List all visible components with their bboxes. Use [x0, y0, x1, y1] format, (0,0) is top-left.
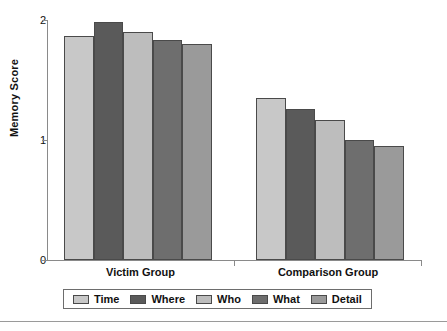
bar-what-victim-group — [153, 40, 183, 260]
y-axis-line — [47, 20, 48, 261]
legend-item-what[interactable]: What — [252, 293, 300, 305]
bar-what-comparison-group — [345, 140, 375, 260]
legend-item-where[interactable]: Where — [130, 293, 185, 305]
legend-swatch-time — [73, 295, 89, 304]
y-tick-0 — [42, 260, 47, 261]
bar-who-victim-group — [123, 32, 153, 260]
legend-label-what: What — [273, 293, 300, 305]
bar-where-comparison-group — [286, 109, 316, 260]
legend-item-time[interactable]: Time — [73, 293, 119, 305]
legend-label-detail: Detail — [332, 293, 362, 305]
bar-time-comparison-group — [256, 98, 286, 260]
legend-label-time: Time — [94, 293, 119, 305]
bar-detail-victim-group — [182, 44, 212, 260]
legend-swatch-who — [196, 295, 212, 304]
footer-divider — [0, 321, 447, 322]
bar-who-comparison-group — [315, 120, 345, 260]
y-tick-1 — [42, 140, 47, 141]
legend-item-detail[interactable]: Detail — [311, 293, 362, 305]
chart-figure: 2 1 0 Memory Score Victim Group Comparis… — [0, 0, 447, 331]
y-tick-2 — [42, 20, 47, 21]
plot-area — [47, 20, 422, 260]
group-label-comparison: Comparison Group — [234, 266, 422, 278]
legend-swatch-detail — [311, 295, 327, 304]
group-label-victim: Victim Group — [47, 266, 234, 278]
chart-legend: TimeWhereWhoWhatDetail — [63, 289, 372, 309]
bar-where-victim-group — [94, 22, 124, 260]
y-axis-title: Memory Score — [8, 38, 20, 158]
legend-label-where: Where — [151, 293, 185, 305]
legend-swatch-where — [130, 295, 146, 304]
bar-time-victim-group — [64, 36, 94, 260]
legend-label-who: Who — [217, 293, 241, 305]
legend-item-who[interactable]: Who — [196, 293, 241, 305]
bar-detail-comparison-group — [374, 146, 404, 260]
legend-swatch-what — [252, 295, 268, 304]
